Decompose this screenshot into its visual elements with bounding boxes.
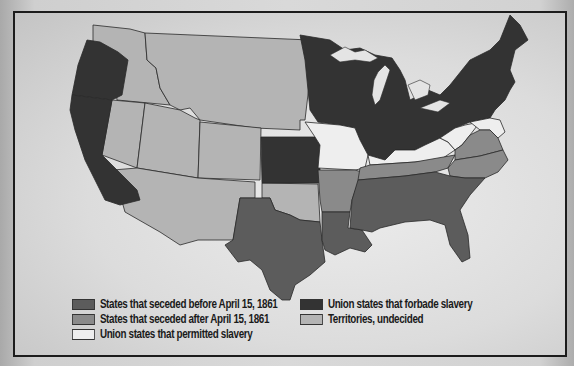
region-utah-territory — [137, 103, 200, 178]
legend-label: States that seceded after April 15, 1861 — [100, 312, 269, 326]
legend-swatch — [72, 314, 95, 325]
region-colorado-territory — [198, 122, 261, 180]
legend-swatch — [72, 299, 95, 310]
legend-label: Union states that forbade slavery — [328, 297, 472, 311]
legend-item-union-slave: Union states that permitted slavery — [72, 327, 252, 341]
legend-item-seceded-before: States that seceded before April 15, 186… — [72, 297, 277, 311]
legend-label: Territories, undecided — [328, 312, 423, 326]
legend-item-seceded-after: States that seceded after April 15, 1861 — [72, 312, 269, 326]
legend-swatch — [300, 314, 323, 325]
legend-item-union-free: Union states that forbade slavery — [300, 297, 472, 311]
legend-label: States that seceded before April 15, 186… — [100, 297, 278, 311]
map-frame: States that seceded before April 15, 186… — [13, 11, 567, 357]
region-deep-south — [350, 172, 485, 262]
legend-label: Union states that permitted slavery — [100, 327, 253, 341]
legend-swatch — [72, 329, 95, 340]
legend-item-territories: Territories, undecided — [300, 312, 423, 326]
region-kansas — [261, 137, 320, 183]
legend-swatch — [300, 299, 323, 310]
